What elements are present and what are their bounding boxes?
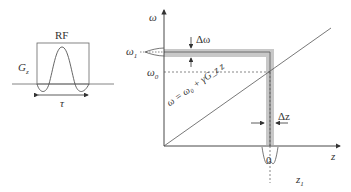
z1-label: z1 bbox=[296, 174, 304, 188]
delta-omega-label: Δω bbox=[196, 34, 210, 45]
rf-label: RF bbox=[55, 30, 68, 41]
omega-axis-label: ω bbox=[149, 12, 157, 23]
duration-label: τ bbox=[60, 98, 64, 109]
z-axis-label: z bbox=[331, 151, 335, 162]
zero-label: 0 bbox=[266, 155, 272, 166]
omega1-label: ω1 bbox=[126, 46, 137, 60]
gradient-label: Gz bbox=[18, 62, 29, 76]
omega0-label: ω0 bbox=[147, 67, 158, 81]
delta-z-label: Δz bbox=[278, 111, 290, 122]
